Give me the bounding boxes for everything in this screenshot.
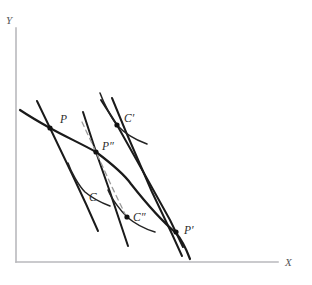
point-label-C: C (89, 191, 97, 203)
y-axis-label: Y (6, 14, 14, 26)
point-marker-Pprime (173, 229, 178, 234)
point-marker-Pdoubleprime (93, 149, 98, 154)
budget-lines-group (37, 98, 183, 256)
figure-root: Y X (0, 0, 312, 285)
point-label-Pprime: P′ (183, 224, 194, 236)
point-label-P: P (59, 113, 67, 125)
point-label-Pdoubleprime: P″ (101, 140, 114, 152)
budget-line-right-outer (101, 100, 183, 247)
point-marker-Cprime (114, 122, 119, 127)
main-curve-group (20, 110, 190, 259)
point-marker-Cdoubleprime (124, 214, 129, 219)
point-label-Cprime: C′ (124, 112, 135, 124)
budget-line-through-P (37, 101, 98, 231)
point-label-Cdoubleprime: C″ (133, 211, 146, 223)
main-offer-curve (20, 110, 190, 259)
x-axis-label: X (284, 256, 293, 268)
indifference-curve-diagram: Y X (0, 0, 312, 285)
point-marker-P (47, 125, 52, 130)
indifference-curve-Cdoubleprime (108, 190, 155, 232)
